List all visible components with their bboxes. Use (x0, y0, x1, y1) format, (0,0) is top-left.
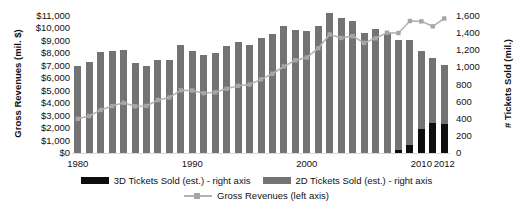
gross-revenues-marker (87, 114, 91, 118)
gross-revenues-marker (419, 19, 423, 23)
gross-revenues-marker (396, 31, 400, 35)
legend-row-secondary: Gross Revenues (left axis) (0, 190, 513, 201)
gross-revenues-marker (408, 19, 412, 23)
gross-revenues-marker (328, 32, 332, 36)
gross-revenues-marker (133, 104, 137, 108)
gross-revenues-marker (373, 36, 377, 40)
gross-revenues-marker (144, 104, 148, 108)
gross-revenues-marker (282, 64, 286, 68)
gross-revenues-marker (121, 101, 125, 105)
x-axis-tick-label: 1990 (182, 158, 203, 169)
gross-revenues-marker (213, 90, 217, 94)
legend-swatch-black (81, 177, 109, 184)
x-axis-tick-label: 2010 (411, 158, 432, 169)
legend-row-primary: 3D Tickets Sold (est.) - right axis2D Ti… (0, 175, 513, 186)
gross-revenues-marker (293, 58, 297, 62)
legend-label: 2D Tickets Sold (est.) - right axis (296, 175, 433, 186)
legend-item[interactable]: 2D Tickets Sold (est.) - right axis (263, 175, 433, 186)
gross-revenues-marker (156, 98, 160, 102)
x-axis-tick-label: 2000 (296, 158, 317, 169)
legend-swatch-gray (263, 177, 291, 184)
gross-revenues-marker (236, 84, 240, 88)
gross-revenues-marker (167, 95, 171, 99)
legend-label: 3D Tickets Sold (est.) - right axis (114, 175, 251, 186)
gross-revenues-marker (247, 82, 251, 86)
gross-revenues-marker (385, 30, 389, 34)
gross-revenues-marker (76, 117, 80, 121)
gross-revenues-marker (110, 104, 114, 108)
gross-revenues-marker (316, 46, 320, 50)
gross-revenues-marker (442, 16, 446, 20)
gross-revenues-marker (350, 34, 354, 38)
gross-revenues-marker (362, 41, 366, 45)
gross-revenues-marker (339, 36, 343, 40)
legend-swatch-line (184, 192, 212, 199)
gross-revenues-line-layer (72, 16, 450, 153)
gross-revenues-marker (259, 77, 263, 81)
x-axis-tick-label: 2012 (434, 158, 455, 169)
gross-revenues-marker (431, 24, 435, 28)
axis-baseline (72, 153, 450, 154)
gross-revenues-marker (305, 55, 309, 59)
gross-revenues-marker (270, 72, 274, 76)
gross-revenues-marker (224, 87, 228, 91)
x-axis-tick-label: 1980 (67, 158, 88, 169)
legend-item[interactable]: Gross Revenues (left axis) (184, 190, 329, 201)
plot-area (72, 16, 450, 153)
chart-container: Gross Revenues (mil. $) # Tickets Sold (… (0, 0, 513, 210)
gross-revenues-marker (98, 108, 102, 112)
gross-revenues-marker (179, 88, 183, 92)
gross-revenues-line (78, 18, 445, 118)
gross-revenues-marker (202, 91, 206, 95)
gross-revenues-marker (190, 88, 194, 92)
legend-item[interactable]: 3D Tickets Sold (est.) - right axis (81, 175, 251, 186)
chart-legend: 3D Tickets Sold (est.) - right axis2D Ti… (0, 175, 513, 210)
legend-label: Gross Revenues (left axis) (217, 190, 329, 201)
